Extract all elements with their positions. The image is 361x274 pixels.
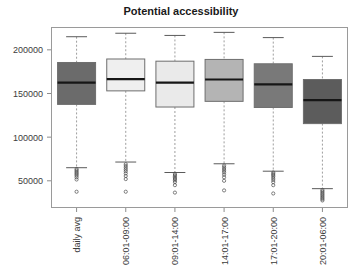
- x-tick-label: 17:01-20:00: [269, 217, 279, 265]
- x-tick-label: 09:01-14:00: [170, 217, 180, 265]
- box-body: [156, 61, 194, 107]
- boxplot-svg: Potential accessibility 5000010000015000…: [0, 0, 361, 274]
- x-tick-label: 20:01-06:00: [318, 217, 328, 265]
- y-tick-label: 100000: [13, 133, 43, 143]
- box-body: [254, 64, 292, 108]
- y-tick-label: 200000: [13, 45, 43, 55]
- boxplot-figure: Potential accessibility 5000010000015000…: [0, 0, 361, 274]
- box-body: [107, 59, 145, 91]
- figure-background: [0, 0, 361, 274]
- x-tick-label: 14:01-17:00: [220, 217, 230, 265]
- x-tick-label: 06:01-09:00: [121, 217, 131, 265]
- chart-title: Potential accessibility: [124, 5, 240, 17]
- x-tick-label: daily avg: [72, 217, 82, 253]
- box-body: [303, 80, 341, 124]
- y-tick-label: 50000: [18, 176, 43, 186]
- y-tick-label: 150000: [13, 89, 43, 99]
